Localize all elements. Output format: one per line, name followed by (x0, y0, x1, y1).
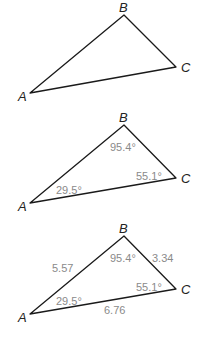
triangle-2-shape (30, 125, 176, 203)
angle-a-measure: 29.5° (56, 295, 82, 307)
side-ac-length: 6.76 (104, 304, 125, 316)
angle-c-measure: 55.1° (136, 281, 162, 293)
vertex-c-label: C (181, 282, 191, 297)
vertex-a-label: A (17, 310, 27, 325)
vertex-b-label: B (119, 221, 128, 236)
angle-a-measure: 29.5° (56, 184, 82, 196)
vertex-a-label: A (17, 89, 27, 104)
triangle-3-shape (30, 236, 176, 314)
angle-b-measure: 95.4° (110, 252, 136, 264)
vertex-c-label: C (181, 60, 191, 75)
triangle-1: A B C (17, 0, 191, 104)
triangle-1-shape (30, 15, 176, 93)
vertex-a-label: A (17, 199, 27, 214)
angle-c-measure: 55.1° (136, 170, 162, 182)
side-ab-length: 5.57 (52, 262, 73, 274)
vertex-c-label: C (181, 171, 191, 186)
side-bc-length: 3.34 (152, 252, 173, 264)
angle-b-measure: 95.4° (110, 141, 136, 153)
vertex-b-label: B (119, 0, 128, 15)
triangle-3: A B C 29.5° 95.4° 55.1° 5.57 3.34 6.76 (17, 221, 191, 325)
triangle-2: A B C 29.5° 95.4° 55.1° (17, 110, 191, 214)
vertex-b-label: B (119, 110, 128, 125)
triangle-diagrams: A B C A B C 29.5° 95.4° 55.1° A B C 29.5… (0, 0, 204, 338)
